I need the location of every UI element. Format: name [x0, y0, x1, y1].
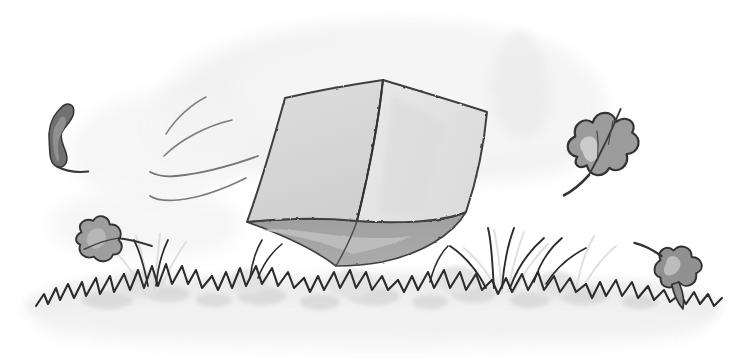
illustration-canvas	[0, 0, 748, 361]
scene-svg	[0, 0, 748, 361]
paper-grain-overlay	[0, 0, 748, 361]
